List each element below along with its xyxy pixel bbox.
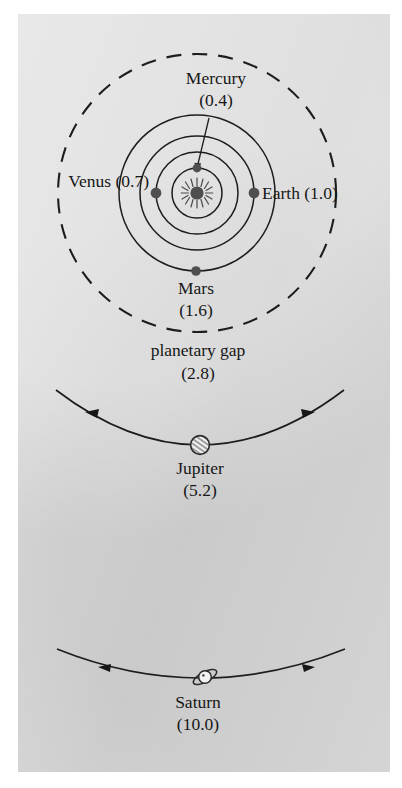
planet-marker-mars [191, 266, 201, 276]
sun-icon [181, 178, 213, 208]
label-saturn-name: Saturn [175, 692, 221, 712]
planet-marker-earth [249, 188, 260, 199]
label-jupiter-value: (5.2) [183, 480, 217, 500]
figure-page: Mercury (0.4) Venus (0.7) Earth (1.0) Ma… [0, 0, 402, 788]
label-saturn-value: (10.0) [177, 714, 219, 734]
label-mars-value: (1.6) [179, 300, 213, 320]
label-mercury-name: Mercury [186, 68, 247, 88]
saturn-group: Saturn (10.0) [57, 649, 345, 734]
solar-system-diagram: Mercury (0.4) Venus (0.7) Earth (1.0) Ma… [0, 0, 402, 788]
label-planetary-gap-value: (2.8) [181, 363, 215, 383]
label-mercury-value: (0.4) [199, 90, 233, 110]
label-planetary-gap-name: planetary gap [151, 340, 246, 360]
jupiter-group: Jupiter (5.2) [56, 390, 344, 500]
inner-solar-system-group: Mercury (0.4) Venus (0.7) Earth (1.0) Ma… [58, 54, 338, 332]
label-venus: Venus (0.7) [68, 171, 149, 191]
planet-marker-mercury [193, 164, 202, 173]
label-jupiter-name: Jupiter [176, 458, 224, 478]
planet-marker-saturn [191, 666, 219, 687]
planetary-gap-label-group: planetary gap (2.8) [151, 340, 246, 383]
saturn-arrow-right [302, 664, 315, 672]
mercury-leader-line [198, 118, 210, 166]
planet-marker-jupiter [191, 436, 210, 455]
label-earth: Earth (1.0) [262, 183, 338, 203]
planet-marker-venus [151, 188, 162, 199]
label-mars-name: Mars [178, 278, 214, 298]
